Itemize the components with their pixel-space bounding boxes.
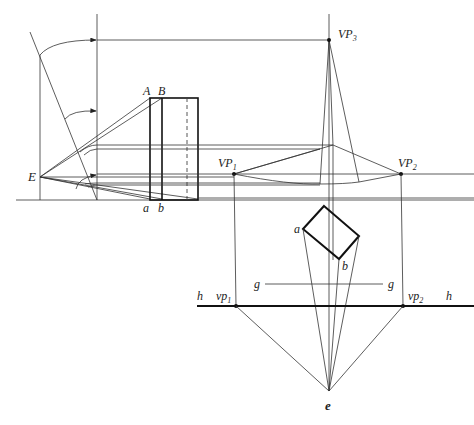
vp3-point (327, 38, 331, 42)
rotation-arc-top (40, 40, 96, 55)
label-E: E (27, 169, 36, 184)
label-vp2: vp2 (408, 289, 423, 305)
perspective-diagram: E A B a b VP3 VP1 VP2 (0, 0, 474, 425)
ray-E-A (40, 98, 150, 177)
rotation-arc-middle (65, 111, 96, 119)
ray-bend-2 (84, 149, 97, 155)
label-b-plan: b (342, 259, 348, 273)
plan-square (303, 206, 359, 259)
projectors (97, 145, 474, 198)
ray-E-B (40, 98, 162, 177)
label-h-left: h (197, 289, 203, 303)
ray-E-c (40, 177, 198, 199)
label-VP1: VP1 (218, 156, 237, 172)
ray-E-b (40, 177, 162, 199)
label-a-plan: a (294, 222, 300, 236)
perspective-view: VP3 VP1 VP2 (218, 14, 417, 391)
label-A: A (142, 84, 151, 98)
label-b-side: b (158, 201, 164, 215)
label-VP2: VP2 (398, 156, 417, 172)
label-B: B (158, 84, 166, 98)
plan-view: g g h h vp1 vp2 a b e (197, 206, 474, 413)
label-h-right: h (446, 289, 452, 303)
label-e: e (325, 398, 331, 413)
label-g-left: g (254, 277, 260, 291)
label-g-right: g (388, 277, 394, 291)
label-vp1: vp1 (216, 289, 231, 305)
bottom-face (234, 174, 401, 184)
label-VP3: VP3 (338, 27, 357, 43)
label-a-side: a (143, 201, 149, 215)
